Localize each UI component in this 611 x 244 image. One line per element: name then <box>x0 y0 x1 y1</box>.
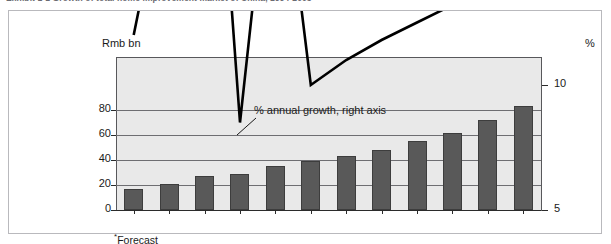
left-axis-tick-mark <box>111 110 116 111</box>
x-axis-baseline <box>116 210 542 211</box>
gridline <box>116 160 541 161</box>
right-axis-line <box>541 57 542 211</box>
bar <box>478 120 497 210</box>
x-axis-tick-mark <box>382 210 383 214</box>
footnote: *Forecast <box>114 232 158 244</box>
left-axis-tick-mark <box>111 185 116 186</box>
bar <box>230 174 249 210</box>
left-axis-tick-label: 20 <box>87 177 111 189</box>
bar <box>372 150 391 210</box>
x-axis-tick-mark <box>523 210 524 214</box>
x-axis-tick-mark <box>346 210 347 214</box>
left-axis-tick-label: 60 <box>87 127 111 139</box>
bar <box>266 166 285 210</box>
bar <box>514 106 533 210</box>
x-axis-tick-mark <box>169 210 170 214</box>
right-axis-tick-mark <box>542 210 548 211</box>
left-axis-tick-mark <box>111 210 116 211</box>
left-axis-tick-label: 40 <box>87 152 111 164</box>
x-axis-tick-mark <box>275 210 276 214</box>
left-axis-tick-label: 0 <box>87 202 111 214</box>
right-axis-tick-mark <box>542 85 548 86</box>
right-axis-tick-label: 10 <box>554 77 574 89</box>
left-axis-tick-label: 80 <box>87 102 111 114</box>
x-axis-tick-mark <box>311 210 312 214</box>
chart-panel: Rmb bn % 806040200 30252015105 % annual … <box>8 10 602 234</box>
bar <box>408 141 427 210</box>
bar <box>160 184 179 210</box>
bar <box>124 189 143 210</box>
left-axis-tick-mark <box>111 135 116 136</box>
x-axis-tick-mark <box>417 210 418 214</box>
bar <box>301 161 320 210</box>
exhibit-title: Exhibit 1-1 Growth of total home improve… <box>6 0 312 3</box>
x-axis-tick-mark <box>240 210 241 214</box>
x-axis-tick-mark <box>452 210 453 214</box>
x-axis-tick-mark <box>488 210 489 214</box>
footnote-text: Forecast <box>117 234 158 244</box>
x-axis-tick-mark <box>134 210 135 214</box>
x-axis-tick-mark <box>205 210 206 214</box>
bar <box>443 133 462 211</box>
gridline <box>116 135 541 136</box>
right-axis-tick-label: 5 <box>554 202 574 214</box>
growth-annotation-label: % annual growth, right axis <box>254 104 386 116</box>
left-axis-unit-label: Rmb bn <box>102 37 141 49</box>
bar <box>195 176 214 210</box>
right-axis-unit-label: % <box>585 37 595 49</box>
gridline <box>116 185 541 186</box>
left-axis-tick-mark <box>111 160 116 161</box>
bar <box>337 156 356 210</box>
